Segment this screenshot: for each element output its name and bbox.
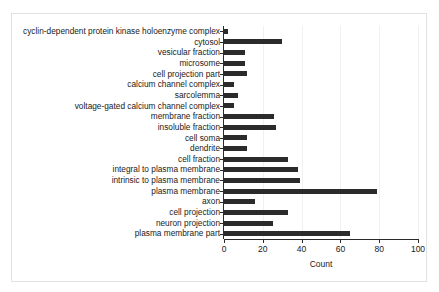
bar bbox=[224, 39, 282, 44]
bar-row: cyclin-dependent protein kinase holoenzy… bbox=[224, 26, 418, 37]
x-tick bbox=[340, 239, 341, 243]
bar bbox=[224, 146, 247, 151]
x-tick bbox=[379, 239, 380, 243]
category-label: intrinsic to plasma membrane bbox=[112, 175, 220, 186]
category-label: axon bbox=[202, 196, 220, 207]
bar-row: voltage-gated calcium channel complex bbox=[224, 101, 418, 112]
x-tick-label: 100 bbox=[411, 244, 425, 254]
x-axis-title: Count bbox=[224, 259, 418, 269]
category-label: cyclin-dependent protein kinase holoenzy… bbox=[23, 26, 220, 37]
category-label: membrane fraction bbox=[151, 111, 220, 122]
x-tick-label: 60 bbox=[336, 244, 345, 254]
bar bbox=[224, 210, 288, 215]
x-axis-line bbox=[224, 239, 418, 240]
bar bbox=[224, 135, 247, 140]
bar-row: insoluble fraction bbox=[224, 122, 418, 133]
bar bbox=[224, 114, 274, 119]
bar bbox=[224, 221, 273, 226]
category-label: microsome bbox=[179, 58, 220, 69]
bar bbox=[224, 50, 245, 55]
bar bbox=[224, 103, 234, 108]
bar-row: membrane fraction bbox=[224, 111, 418, 122]
category-label: cell soma bbox=[185, 133, 220, 144]
category-label: insoluble fraction bbox=[158, 122, 220, 133]
bar bbox=[224, 189, 377, 194]
category-label: cytosol bbox=[194, 37, 220, 48]
bar-row: cytosol bbox=[224, 37, 418, 48]
x-tick bbox=[224, 239, 225, 243]
category-label: cell projection bbox=[169, 207, 220, 218]
x-tick bbox=[302, 239, 303, 243]
x-tick-label: 0 bbox=[222, 244, 227, 254]
bar-row: axon bbox=[224, 196, 418, 207]
bar-row: dendrite bbox=[224, 143, 418, 154]
bar-row: sarcolemma bbox=[224, 90, 418, 101]
category-label: cell projection part bbox=[153, 69, 220, 80]
category-label: vesicular fraction bbox=[158, 47, 220, 58]
bar-row: cell projection bbox=[224, 207, 418, 218]
category-label: cell fraction bbox=[178, 154, 220, 165]
category-label: sarcolemma bbox=[175, 90, 220, 101]
gridline bbox=[418, 26, 419, 239]
x-tick bbox=[418, 239, 419, 243]
x-tick-label: 20 bbox=[258, 244, 267, 254]
bar bbox=[224, 71, 247, 76]
bar bbox=[224, 199, 255, 204]
category-label: calcium channel complex bbox=[127, 79, 220, 90]
x-tick-label: 40 bbox=[297, 244, 306, 254]
bar bbox=[224, 167, 298, 172]
category-label: integral to plasma membrane bbox=[113, 164, 220, 175]
bar-row: cell fraction bbox=[224, 154, 418, 165]
bar-row: integral to plasma membrane bbox=[224, 164, 418, 175]
bar-chart-figure: 020406080100 cyclin-dependent protein ki… bbox=[0, 0, 439, 292]
category-label: plasma membrane part bbox=[135, 228, 220, 239]
x-tick-label: 80 bbox=[374, 244, 383, 254]
bar bbox=[224, 178, 300, 183]
category-label: neuron projection bbox=[156, 218, 220, 229]
bar bbox=[224, 61, 245, 66]
bar-row: cell projection part bbox=[224, 69, 418, 80]
bar bbox=[224, 93, 238, 98]
bar bbox=[224, 29, 228, 34]
bar-row: cell soma bbox=[224, 133, 418, 144]
bar-row: plasma membrane part bbox=[224, 228, 418, 239]
category-label: voltage-gated calcium channel complex bbox=[75, 101, 220, 112]
category-label: dendrite bbox=[190, 143, 220, 154]
bar-row: microsome bbox=[224, 58, 418, 69]
bar bbox=[224, 157, 288, 162]
bar-row: calcium channel complex bbox=[224, 79, 418, 90]
bar bbox=[224, 231, 350, 236]
category-label: plasma membrane bbox=[151, 186, 220, 197]
bar-row: neuron projection bbox=[224, 218, 418, 229]
bar-row: vesicular fraction bbox=[224, 47, 418, 58]
bar-row: plasma membrane bbox=[224, 186, 418, 197]
bar bbox=[224, 125, 276, 130]
x-tick bbox=[263, 239, 264, 243]
plot-area: cyclin-dependent protein kinase holoenzy… bbox=[224, 26, 418, 239]
bar bbox=[224, 82, 234, 87]
bar-row: intrinsic to plasma membrane bbox=[224, 175, 418, 186]
